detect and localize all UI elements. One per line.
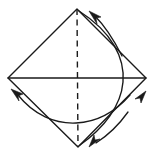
right-arrowhead-icon	[135, 91, 146, 103]
origami-diagram	[0, 0, 154, 155]
diagram-canvas	[0, 0, 154, 155]
lower-sweep-arc	[18, 95, 130, 123]
